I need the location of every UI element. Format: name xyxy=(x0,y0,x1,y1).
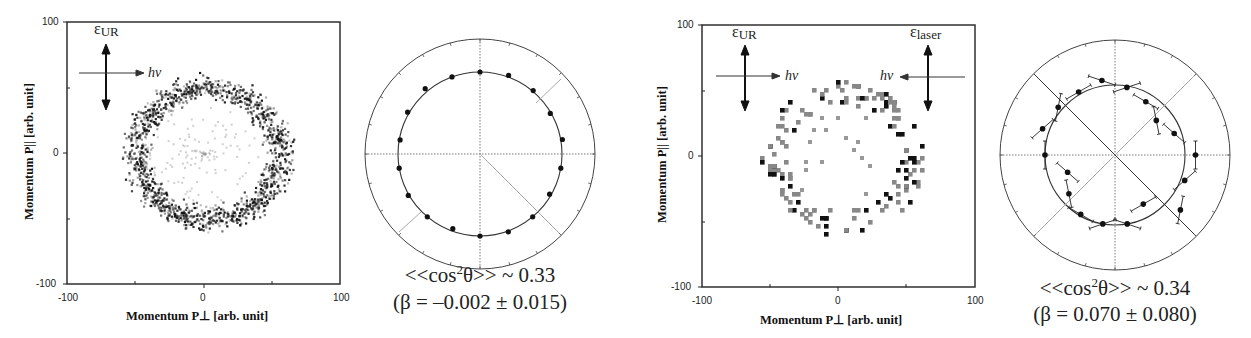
beta-caption-right: (β = 0.070 ± 0.080) xyxy=(1005,302,1225,327)
cos2-caption-right: <<cos2θ>> ~ 0.34 xyxy=(1015,275,1215,301)
data-points-with-error-bars xyxy=(1031,74,1198,230)
